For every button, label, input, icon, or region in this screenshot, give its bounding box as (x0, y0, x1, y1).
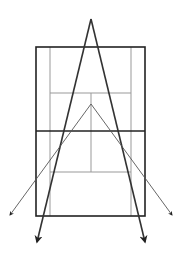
tennis-court-diagram (0, 0, 185, 263)
court-svg (0, 0, 185, 263)
court (36, 47, 145, 216)
